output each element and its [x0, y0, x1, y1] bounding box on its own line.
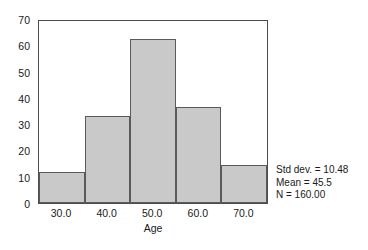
plot-area: [38, 20, 268, 204]
n-annotation: N = 160.00: [276, 189, 368, 202]
x-tick-label: 50.0: [129, 207, 175, 220]
std-dev-annotation: Std dev. = 10.48: [276, 164, 368, 177]
mean-annotation: Mean = 45.5: [276, 177, 368, 190]
y-tick-label: 40: [2, 93, 30, 105]
y-tick-label: 50: [2, 67, 30, 79]
histogram-bar: [85, 116, 131, 203]
y-tick-label: 20: [2, 145, 30, 157]
bars-layer: [39, 21, 267, 203]
y-tick-label: 30: [2, 119, 30, 131]
histogram-bar: [39, 172, 85, 203]
histogram-bar: [130, 39, 176, 203]
y-tick-label: 0: [2, 198, 30, 210]
x-tick-label: 40.0: [84, 207, 130, 220]
y-axis: 70 60 50 40 30 20 10 0: [0, 14, 38, 210]
statistics-annotation: Std dev. = 10.48 Mean = 45.5 N = 160.00: [276, 164, 368, 202]
x-tick-label: 70.0: [220, 207, 266, 220]
y-tick-label: 70: [2, 14, 30, 26]
y-tick-label: 60: [2, 40, 30, 52]
x-axis-title: Age: [38, 222, 268, 235]
x-tick-label: 30.0: [38, 207, 84, 220]
histogram-bar: [221, 165, 267, 203]
histogram-bar: [176, 107, 222, 203]
y-tick-label: 10: [2, 172, 30, 184]
x-axis: 30.0 40.0 50.0 60.0 70.0: [38, 207, 268, 223]
x-tick-label: 60.0: [175, 207, 221, 220]
histogram-chart: 70 60 50 40 30 20 10 0 30.0 40.0 50.0 60…: [0, 0, 368, 250]
